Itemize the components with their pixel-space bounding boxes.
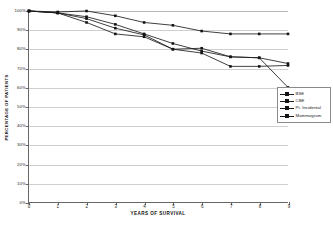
data-point-marker: [258, 33, 261, 36]
y-axis-title-text: PERCENTAGE OF PATIENTS: [4, 74, 9, 140]
data-point-marker: [229, 65, 232, 68]
y-axis-tick-label: 0%: [20, 201, 26, 205]
x-axis-tick-label: 4: [143, 205, 146, 210]
chart-legend: BSECBEPt. IncidentalMammogram: [277, 87, 331, 123]
series-line: [29, 11, 288, 87]
x-axis-tick-label: 2: [86, 205, 89, 210]
y-axis-tick-label: 30%: [17, 143, 26, 147]
y-axis-tick-label: 100%: [15, 9, 26, 13]
legend-item: BSE: [279, 90, 329, 97]
legend-item-label: CBE: [294, 99, 305, 103]
legend-marker-icon: [280, 105, 294, 112]
y-axis-tick-label: 50%: [17, 105, 26, 109]
x-axis-tick-label: 8: [259, 205, 262, 210]
data-point-marker: [258, 65, 261, 68]
legend-item: Pt. Incidental: [279, 105, 329, 112]
survival-line-chart: PERCENTAGE OF PATIENTS 0%10%20%30%40%50%…: [0, 0, 333, 226]
plot-area: 0%10%20%30%40%50%60%70%80%90%100% 012345…: [28, 11, 288, 203]
data-point-marker: [200, 30, 203, 33]
series-plot: [29, 11, 288, 202]
data-point-marker: [85, 15, 88, 18]
data-point-marker: [143, 33, 146, 36]
y-axis-tick-label: 40%: [17, 124, 26, 128]
x-axis-title: YEARS OF SURVIVAL: [28, 211, 288, 216]
legend-marker-icon: [280, 98, 294, 105]
x-axis-tick-label: 7: [230, 205, 233, 210]
data-point-marker: [172, 48, 175, 51]
legend-item: CBE: [279, 97, 329, 104]
y-axis-tick-label: 70%: [17, 66, 26, 70]
data-point-marker: [85, 21, 88, 24]
data-point-marker: [258, 57, 261, 60]
y-axis-title: PERCENTAGE OF PATIENTS: [1, 11, 11, 203]
legend-item-label: Mammogram: [294, 114, 321, 118]
data-point-marker: [229, 56, 232, 59]
data-point-marker: [287, 64, 290, 67]
x-axis-tick-label: 1: [57, 205, 60, 210]
y-axis-tick-label: 80%: [17, 47, 26, 51]
legend-marker-icon: [280, 90, 294, 97]
series-line: [29, 11, 288, 64]
y-axis-tick-label: 60%: [17, 86, 26, 90]
data-point-marker: [200, 50, 203, 53]
legend-item-label: BSE: [294, 92, 304, 96]
data-point-marker: [287, 33, 290, 36]
data-point-marker: [85, 10, 88, 13]
data-point-marker: [114, 33, 117, 36]
data-point-marker: [200, 47, 203, 50]
x-axis-tick-label: 6: [201, 205, 204, 210]
data-point-marker: [28, 10, 31, 13]
x-axis-tick-label: 9: [288, 205, 291, 210]
data-point-marker: [172, 42, 175, 45]
data-point-marker: [143, 21, 146, 24]
data-point-marker: [114, 27, 117, 30]
data-point-marker: [172, 24, 175, 27]
data-point-marker: [143, 35, 146, 38]
data-point-marker: [56, 11, 59, 14]
legend-item-label: Pt. Incidental: [294, 106, 321, 110]
y-axis-tick-label: 10%: [17, 182, 26, 186]
x-axis-tick-label: 0: [28, 205, 31, 210]
series-pt-incidental: [28, 10, 290, 89]
y-axis-tick-label: 20%: [17, 162, 26, 166]
series-mammogram: [28, 10, 290, 36]
series-bse: [28, 10, 290, 65]
data-point-marker: [114, 14, 117, 17]
x-axis-tick-label: 3: [114, 205, 117, 210]
legend-item: Mammogram: [279, 112, 329, 119]
x-axis-tick-label: 5: [172, 205, 175, 210]
legend-marker-icon: [280, 112, 294, 119]
data-point-marker: [229, 33, 232, 36]
y-axis-tick-label: 90%: [17, 28, 26, 32]
data-point-marker: [114, 23, 117, 26]
